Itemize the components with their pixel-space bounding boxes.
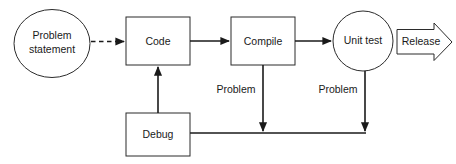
edge-compile-to-debug: Problem xyxy=(216,65,263,131)
node-release[interactable]: Release xyxy=(397,23,452,61)
node-unit-test[interactable]: Unit test xyxy=(333,11,393,71)
node-debug[interactable]: Debug xyxy=(126,113,190,156)
flowchart-canvas: Problem statement Code Compile Unit te xyxy=(0,0,456,164)
compile-label: Compile xyxy=(244,35,283,47)
edge-label-compile-problem: Problem xyxy=(216,83,255,95)
node-code[interactable]: Code xyxy=(126,17,190,65)
edge-label-unit-test-problem: Problem xyxy=(318,83,357,95)
debug-label: Debug xyxy=(143,128,174,140)
node-problem-statement[interactable]: Problem statement xyxy=(14,10,90,78)
release-label: Release xyxy=(402,35,441,47)
flowchart-diagram: Problem statement Code Compile Unit te xyxy=(0,0,456,164)
edge-unit-test-to-debug: Problem xyxy=(318,71,365,131)
problem-statement-label-line1: Problem xyxy=(32,29,71,41)
node-compile[interactable]: Compile xyxy=(231,17,295,65)
problem-statement-label-line2: statement xyxy=(29,43,75,55)
unit-test-label: Unit test xyxy=(344,34,383,46)
code-label: Code xyxy=(145,35,170,47)
